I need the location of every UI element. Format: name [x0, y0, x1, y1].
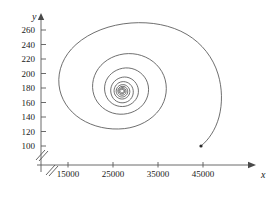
phase-plane-figure: 260 240 220 200 180 160 140 120 100 1500…	[0, 0, 276, 199]
ytick-label-240: 240	[9, 41, 35, 50]
x-axis	[37, 162, 256, 169]
start-point-marker	[199, 144, 202, 147]
x-axis-label: x	[261, 170, 265, 180]
y-axis-label: y	[32, 12, 36, 22]
ytick-label-180: 180	[9, 84, 35, 93]
ytick-label-140: 140	[9, 113, 35, 122]
ytick-label-220: 220	[9, 55, 35, 64]
y-axis	[38, 13, 44, 172]
xtick-label-45000: 45000	[183, 170, 223, 179]
ytick-label-120: 120	[9, 128, 35, 137]
xtick-label-25000: 25000	[93, 170, 133, 179]
ytick-label-160: 160	[9, 99, 35, 108]
xtick-label-15000: 15000	[48, 170, 88, 179]
y-axis-ticks	[41, 30, 46, 146]
trajectory-curve	[59, 23, 222, 146]
y-axis-break-icon	[36, 150, 48, 161]
ytick-label-100: 100	[9, 142, 35, 151]
ytick-label-200: 200	[9, 70, 35, 79]
xtick-label-35000: 35000	[138, 170, 178, 179]
ytick-label-260: 260	[9, 26, 35, 35]
